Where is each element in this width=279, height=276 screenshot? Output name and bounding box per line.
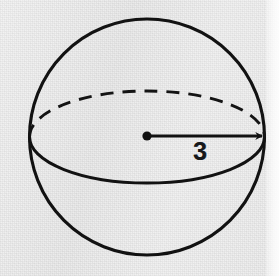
radius-measure-label: 3 <box>193 139 207 164</box>
equator-front-arc <box>30 137 265 183</box>
sphere-center-dot <box>142 131 151 140</box>
sphere-diagram <box>0 0 279 276</box>
equator-hidden-arc <box>30 91 265 137</box>
sphere-figure: 3 <box>0 0 279 276</box>
